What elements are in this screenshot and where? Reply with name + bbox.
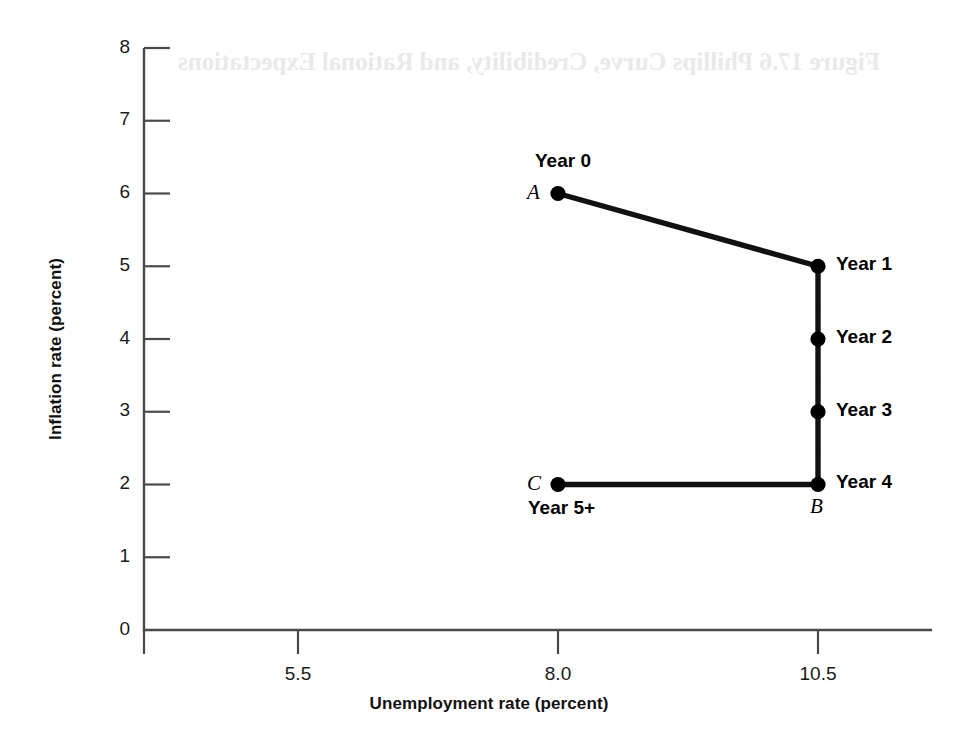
y-tick-label-4: 4 (100, 327, 130, 349)
disinflation-path (558, 194, 818, 485)
x-tick-label-5-5: 5.5 (263, 663, 333, 685)
y-tick-label-2: 2 (100, 472, 130, 494)
y-tick-label-3: 3 (100, 399, 130, 421)
year-label-2: Year 2 (836, 326, 892, 348)
x-axis-title: Unemployment rate (percent) (0, 694, 978, 714)
year-label-0: Year 0 (535, 150, 591, 172)
y-tick-marks (144, 48, 170, 557)
y-tick-label-7: 7 (100, 108, 130, 130)
y-tick-label-8: 8 (100, 36, 130, 58)
chart-canvas (0, 0, 978, 746)
y-tick-label-0: 0 (100, 618, 130, 640)
marker-year-1 (810, 259, 825, 274)
year-label-1: Year 1 (836, 253, 892, 275)
phillips-curve-figure: Figure 17.6 Phillips Curve, Credibility,… (0, 0, 978, 746)
point-name-b: B (810, 494, 823, 519)
year-label-4: Year 4 (836, 471, 892, 493)
year-label-3: Year 3 (836, 399, 892, 421)
y-tick-label-5: 5 (100, 254, 130, 276)
marker-year-0 (550, 186, 565, 201)
path-arrowheads (625, 212, 818, 484)
y-tick-label-1: 1 (100, 545, 130, 567)
point-name-a: A (527, 180, 540, 205)
marker-year-2 (810, 331, 825, 346)
point-name-c: C (527, 471, 541, 496)
marker-year-5-plus (550, 477, 565, 492)
y-tick-label-6: 6 (100, 181, 130, 203)
x-tick-label-8-0: 8.0 (523, 663, 593, 685)
marker-year-3 (810, 404, 825, 419)
path-line (558, 194, 818, 485)
marker-year-4 (810, 477, 825, 492)
year-label-5-plus: Year 5+ (528, 497, 595, 519)
y-axis-title: Inflation rate (percent) (46, 189, 66, 509)
x-tick-marks (144, 630, 818, 654)
x-tick-label-10-5: 10.5 (783, 663, 853, 685)
